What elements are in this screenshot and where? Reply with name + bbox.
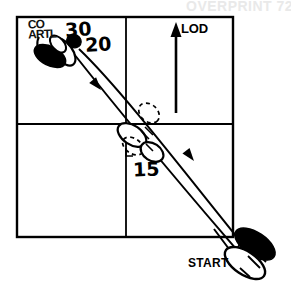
lod-label: LOD <box>181 21 208 36</box>
lod-direction-arrow <box>171 22 182 113</box>
diagram-canvas <box>0 0 291 299</box>
lod-arrow-head <box>171 22 182 37</box>
start-label: START <box>188 256 229 270</box>
inbound-path-arrowhead <box>182 148 197 164</box>
step-number-15: 15 <box>133 158 160 181</box>
step-number-20: 20 <box>84 32 112 55</box>
dance-step-diagram: OVERPRINT 72 <box>0 0 291 299</box>
obscured-overprint-text: COARTL <box>28 19 57 40</box>
footprints-step-15 <box>113 99 167 166</box>
footprints-start <box>214 222 280 286</box>
inbound-travel-path <box>79 49 245 247</box>
foot-dashed-upper <box>135 99 163 127</box>
